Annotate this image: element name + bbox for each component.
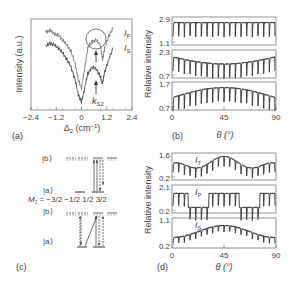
- tick-label: −2.4: [23, 113, 39, 122]
- panel-b-ylabel: Relative intensity: [143, 29, 153, 98]
- arrow-head: [99, 188, 101, 191]
- xtick-label: 90: [272, 251, 281, 260]
- panel-a: Intensity (a.u.) −2.4−1.201.22.4 Δ2 (cm−…: [12, 19, 138, 141]
- panel-a-label: (a): [12, 131, 23, 141]
- xtick-label: 0: [170, 113, 175, 122]
- label-ip: IP: [124, 28, 131, 39]
- ytick-bottom: 0.2: [159, 174, 171, 183]
- label-a-upper: |a⟩: [43, 186, 53, 195]
- ytick-bottom: 1.1: [159, 39, 171, 48]
- xtick-label: 90: [272, 113, 281, 122]
- panel-b-label: (b): [172, 131, 183, 141]
- xtick-label: 45: [220, 113, 229, 122]
- ytick-top: 2.3: [159, 48, 171, 57]
- tick-label: 0: [79, 113, 84, 122]
- xtick-label: 45: [220, 251, 229, 260]
- subplot-curve: [173, 156, 275, 178]
- ytick-bottom: 0.2: [159, 242, 171, 251]
- tick-label: 1.2: [101, 113, 113, 122]
- panel-b: Relative intensity 2.91.12.30.71.70.7 04…: [143, 15, 281, 141]
- subplot-curve: [173, 193, 275, 221]
- label-ks2: kS2: [92, 96, 105, 107]
- ytick-bottom: 0.7: [159, 104, 171, 113]
- subplot-frame: [172, 218, 276, 248]
- arrow-lower-head: [94, 80, 98, 85]
- tick-label: 2.4: [126, 113, 138, 122]
- label-is: IS: [124, 43, 131, 54]
- ytick-top: 2.1: [159, 183, 171, 192]
- panel-c: |b⟩ |a⟩ MJ = −3/2 −1/2 1/2 3/2 |b⟩ |a⟩ (…: [16, 154, 117, 272]
- ytick-bottom: 0.2: [159, 207, 171, 216]
- tick-label: −1.2: [48, 113, 64, 122]
- panel-a-xticks: −2.4−1.201.22.4: [23, 107, 138, 122]
- ytick-top: 1.6: [159, 151, 171, 160]
- arrow-upper-head: [94, 50, 98, 55]
- panel-b-subplots: 2.91.12.30.71.70.7: [159, 15, 276, 113]
- panel-d-xlabel: θ (°): [216, 262, 233, 272]
- panel-a-xlabel: Δ2 (cm−1): [64, 123, 101, 134]
- ytick-top: 2.9: [159, 15, 171, 24]
- curve-I_S: [46, 42, 113, 104]
- subplot-series-label: IS: [195, 220, 202, 231]
- mj-label: MJ = −3/2 −1/2 1/2 3/2: [28, 195, 107, 205]
- subplot-curve: [173, 225, 275, 244]
- ytick-top: 1.7: [159, 80, 171, 89]
- subplot-curve: [173, 57, 275, 79]
- ytick-top: 1.1: [159, 216, 171, 225]
- arrow-head: [98, 243, 100, 246]
- panel-d-ylabel: Relative intensity: [143, 165, 153, 234]
- arrow-head: [93, 160, 95, 163]
- panel-d-xticks: 04590: [170, 245, 281, 260]
- arrow-head: [102, 182, 104, 185]
- arrow-head: [102, 216, 104, 219]
- subplot-series-label: IT: [195, 155, 202, 166]
- panel-c-label: (c): [16, 262, 27, 272]
- panel-d-subplots: 1.60.2IT2.10.2IP1.10.2IS: [159, 151, 276, 251]
- xtick-label: 0: [170, 251, 175, 260]
- label-b-lower: |b⟩: [43, 207, 53, 216]
- subplot-curve: [173, 22, 275, 37]
- transition-arrow: [85, 216, 97, 246]
- subplot-series-label: IP: [195, 187, 202, 198]
- panel-d: Relative intensity 1.60.2IT2.10.2IP1.10.…: [143, 151, 281, 272]
- figure: Intensity (a.u.) −2.4−1.201.22.4 Δ2 (cm−…: [0, 0, 293, 286]
- label-a-lower: |a⟩: [43, 237, 53, 246]
- arrow-head: [96, 160, 98, 163]
- panel-a-curves: [46, 28, 113, 104]
- label-b-upper: |b⟩: [42, 154, 52, 163]
- panel-b-xlabel: θ (°): [217, 130, 234, 140]
- panel-a-ylabel: Intensity (a.u.): [14, 35, 24, 92]
- panel-b-xticks: 04590: [170, 107, 281, 122]
- panel-a-frame: [31, 19, 132, 110]
- panel-d-label: (d): [157, 262, 168, 272]
